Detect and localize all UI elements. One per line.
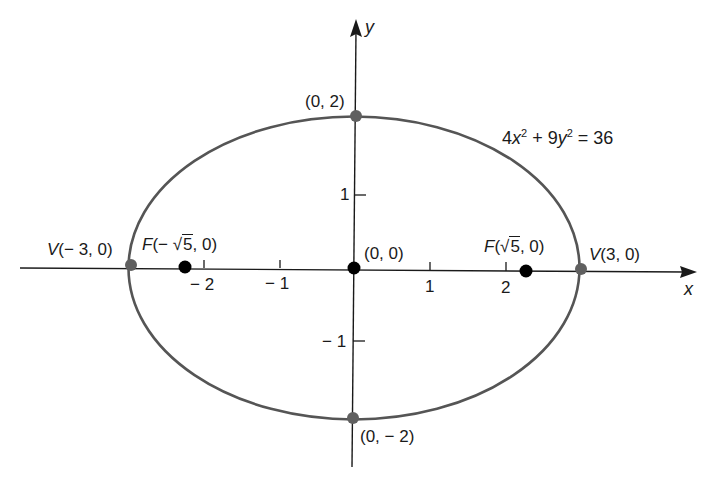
eq-var-y: y xyxy=(558,128,567,148)
point-left-vertex xyxy=(125,259,137,271)
point-top xyxy=(350,110,362,122)
label-center: (0, 0) xyxy=(364,245,404,262)
point-right-vertex xyxy=(575,263,587,275)
label-right-focus: F(√5, 0) xyxy=(484,238,544,255)
point-center xyxy=(348,262,361,275)
ellipse-diagram: y x 4x2 + 9y2 = 36 − 2 − 1 1 2 1 − 1 (0,… xyxy=(0,0,716,491)
eq-coef-2: 9 xyxy=(548,128,558,148)
vertex-prefix: V xyxy=(589,245,600,264)
focus-prefix: F xyxy=(142,235,152,254)
y-axis xyxy=(352,30,356,467)
eq-var-x: x xyxy=(512,128,521,148)
label-right-vertex: V(3, 0) xyxy=(589,246,640,263)
eq-plus: + xyxy=(527,128,548,148)
x-tick-label-neg1: − 1 xyxy=(265,275,289,292)
label-top: (0, 2) xyxy=(305,93,345,110)
point-right-focus xyxy=(520,265,533,278)
eq-rhs: = 36 xyxy=(573,128,614,148)
vertex-prefix: V xyxy=(47,240,58,259)
vertex-coords: (− 3, 0) xyxy=(58,240,112,259)
x-tick-label-1: 1 xyxy=(425,278,434,295)
y-tick-label-1: 1 xyxy=(340,186,349,203)
focus-close: , 0) xyxy=(193,235,218,254)
ellipse-equation: 4x2 + 9y2 = 36 xyxy=(502,128,613,147)
x-axis-label: x xyxy=(684,280,693,298)
y-axis-label: y xyxy=(365,18,374,36)
x-tick-label-2: 2 xyxy=(501,279,510,296)
point-bottom xyxy=(347,412,359,424)
x-axis-arrow-icon xyxy=(680,266,697,278)
focus-open: (− xyxy=(152,235,172,254)
focus-radicand: 5 xyxy=(509,236,519,256)
sqrt-icon: √5 xyxy=(500,238,520,255)
label-left-vertex: V(− 3, 0) xyxy=(47,241,113,258)
focus-close: , 0) xyxy=(520,237,545,256)
label-left-focus: F(− √5, 0) xyxy=(142,236,217,253)
y-tick-label-neg1: − 1 xyxy=(322,333,346,350)
sqrt-icon: √5 xyxy=(173,236,193,253)
eq-coef-1: 4 xyxy=(502,128,512,148)
label-bottom: (0, − 2) xyxy=(360,428,414,445)
focus-prefix: F xyxy=(484,237,494,256)
x-tick-label-neg2: − 2 xyxy=(190,276,214,293)
point-left-focus xyxy=(179,261,192,274)
focus-radicand: 5 xyxy=(182,234,192,254)
vertex-coords: (3, 0) xyxy=(600,245,640,264)
